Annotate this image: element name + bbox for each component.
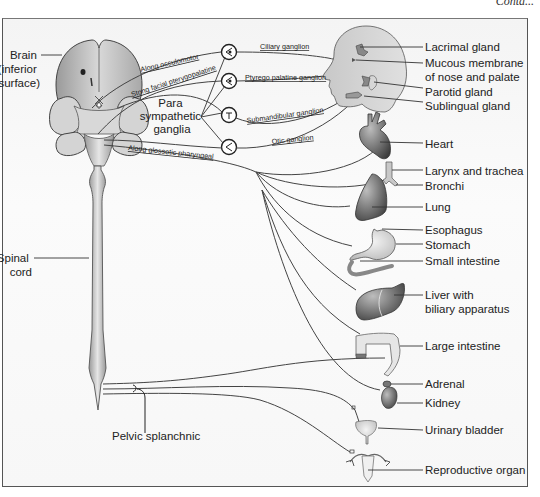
nerve-ciliary-to-eye xyxy=(237,52,346,62)
organ-label-sublingual-gland: Sublingual gland xyxy=(425,100,510,112)
ganglion-submandibular-icon xyxy=(222,108,237,123)
pelvic-splanchnic-label: Pelvic splanchnic xyxy=(112,430,200,442)
large-intestine-illustration xyxy=(356,333,400,376)
pelvic-splanchnic-bracket xyxy=(133,385,145,433)
organ-label-parotid-gland: Parotid gland xyxy=(425,86,493,98)
kidney-illustration xyxy=(382,381,398,408)
urinary-bladder-illustration xyxy=(356,421,377,445)
organ-label-adrenal: Adrenal xyxy=(425,378,465,390)
brain-marker-icon xyxy=(81,69,86,75)
liver-illustration xyxy=(356,283,405,320)
organ-label-mucous-membrane: Mucous membrane of nose and palate xyxy=(425,57,527,83)
ganglion-ciliary-icon xyxy=(222,45,237,60)
brain-label: Brain (inferior surface) xyxy=(0,49,40,89)
nerve-to-large-intestine xyxy=(103,358,385,384)
organ-label-larynx-trachea: Larynx and trachea xyxy=(425,165,524,177)
pterygopalatine-ganglion-label: Ptyrego palatine ganglion xyxy=(245,73,326,82)
organ-labels: Lacrimal gland Mucous membrane of nose a… xyxy=(425,41,527,476)
otic-ganglion-label: Otic ganglion xyxy=(271,133,314,146)
heart-illustration xyxy=(359,112,390,159)
respiratory-illustration xyxy=(355,162,398,221)
organ-label-liver: Liver with biliary apparatus xyxy=(425,289,510,315)
organ-label-stomach: Stomach xyxy=(425,239,470,251)
organ-label-lacrimal-gland: Lacrimal gland xyxy=(425,41,500,53)
parasympathetic-diagram: Brain (inferior surface) Spinal cord Pel… xyxy=(0,0,540,497)
stomach-illustration xyxy=(349,229,395,274)
organ-label-lung: Lung xyxy=(425,201,451,213)
organ-label-bronchi: Bronchi xyxy=(425,180,464,192)
nerve-to-reproductive xyxy=(103,393,350,452)
parasympathetic-ganglia-label: Para sympathetic ganglia xyxy=(140,97,205,135)
organ-label-reproductive-organ: Reproductive organ xyxy=(425,464,525,476)
organ-label-esophagus: Esophagus xyxy=(425,224,483,236)
organ-label-large-intestine: Large intestine xyxy=(425,340,500,352)
organ-label-kidney: Kidney xyxy=(425,397,460,409)
organ-label-heart: Heart xyxy=(425,138,454,150)
ganglion-pterygopalatine-icon xyxy=(222,74,237,89)
ganglion-otic-icon xyxy=(222,140,237,155)
vagus-nerve-branches xyxy=(104,145,385,390)
reproductive-organ-illustration xyxy=(346,454,390,482)
ciliary-ganglion-label: Ciliary ganglion xyxy=(260,42,309,51)
glossopharyngeal-nerve-label: Along glossotic pharyngeal xyxy=(128,143,215,161)
organ-label-urinary-bladder: Urinary bladder xyxy=(425,424,504,436)
organ-label-small-intestine: Small intestine xyxy=(425,255,500,267)
spinal-cord-illustration xyxy=(89,166,106,410)
spinal-cord-label: Spinal cord xyxy=(0,252,32,278)
